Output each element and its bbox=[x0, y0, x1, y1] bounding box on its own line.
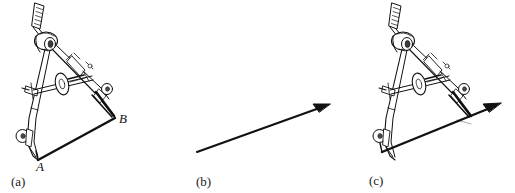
panel-a: A B bbox=[0, 0, 175, 193]
vector-segment-ab bbox=[36, 118, 115, 160]
panel-a-drawing bbox=[0, 0, 175, 193]
right-leg-joint-icon bbox=[67, 53, 93, 76]
vector-arrow-b bbox=[197, 104, 330, 152]
panel-c-drawing bbox=[345, 0, 515, 193]
caption-a: (a) bbox=[11, 175, 25, 188]
panel-b-drawing bbox=[175, 0, 345, 193]
right-leg-joint-icon bbox=[424, 53, 450, 76]
point-label-b: B bbox=[119, 112, 127, 125]
pen-point-icon bbox=[92, 84, 114, 118]
compass-handle-icon bbox=[389, 3, 402, 36]
caption-b: (b) bbox=[196, 175, 211, 188]
point-label-a: A bbox=[36, 160, 44, 173]
compass-left-leg bbox=[16, 49, 50, 160]
panel-b bbox=[175, 0, 345, 193]
compass-handle-icon bbox=[32, 3, 45, 36]
vector-arrow-c bbox=[380, 103, 501, 152]
compass-hinge-icon bbox=[392, 32, 415, 52]
panel-c bbox=[345, 0, 515, 193]
caption-c: (c) bbox=[369, 174, 383, 187]
compass-hinge-icon bbox=[35, 32, 58, 52]
figure-root: A B bbox=[0, 0, 515, 193]
